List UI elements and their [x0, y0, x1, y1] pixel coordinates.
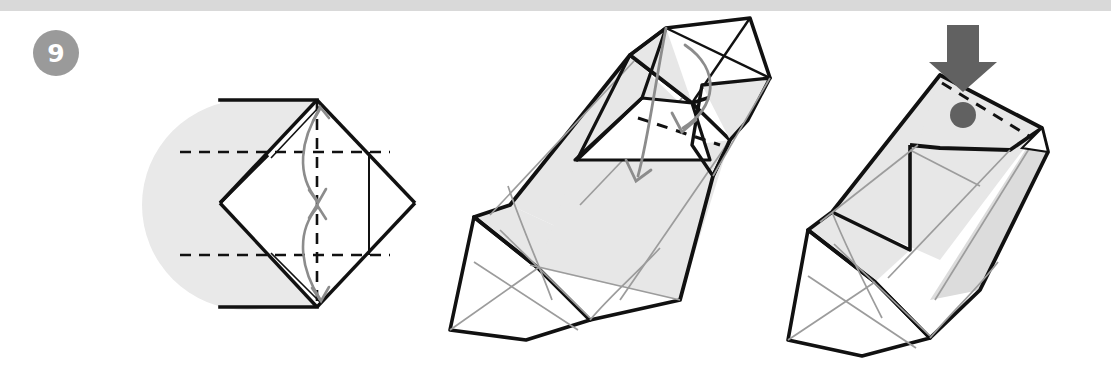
- figure-3-flap-pressed-form: [770, 0, 1111, 375]
- figure-1-flat-square: [150, 0, 450, 375]
- step-number-badge: 9: [33, 30, 79, 76]
- origami-step-page: 9: [0, 0, 1111, 375]
- marker-dot: [950, 102, 976, 128]
- figure-2-open-flap-form: [430, 0, 790, 375]
- right-wing-gray: [702, 78, 770, 140]
- step-number-label: 9: [47, 41, 64, 66]
